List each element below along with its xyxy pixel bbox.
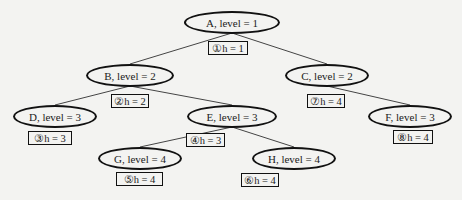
annotation-d-text: ③h = 3: [34, 132, 66, 144]
node-g-label: G, level = 4: [114, 153, 166, 165]
annotation-e: ④h = 3: [186, 133, 225, 147]
node-d: D, level = 3: [13, 105, 97, 128]
node-h: H, level = 4: [252, 147, 336, 170]
annotation-e-text: ④h = 3: [190, 134, 222, 146]
annotation-b-text: ②h = 2: [114, 95, 146, 107]
node-f: F, level = 3: [368, 105, 452, 128]
tree-diagram: A, level = 1 ①h = 1 B, level = 2 ②h = 2 …: [0, 0, 462, 200]
annotation-d: ③h = 3: [28, 131, 72, 145]
annotation-a: ①h = 1: [208, 41, 248, 55]
node-f-label: F, level = 3: [385, 111, 434, 123]
node-c-label: C, level = 2: [301, 70, 352, 82]
annotation-h-text: ⑥h = 4: [244, 174, 276, 186]
node-a: A, level = 1: [184, 11, 280, 34]
annotation-c: ⑦h = 4: [307, 94, 345, 108]
annotation-f-text: ⑧h = 4: [397, 131, 429, 143]
node-e-label: E, level = 3: [207, 111, 258, 123]
annotation-b: ②h = 2: [111, 94, 149, 108]
annotation-c-text: ⑦h = 4: [310, 95, 342, 107]
annotation-g-text: ⑤h = 4: [124, 173, 156, 185]
annotation-g: ⑤h = 4: [116, 172, 163, 186]
node-a-label: A, level = 1: [206, 17, 258, 29]
annotation-h: ⑥h = 4: [241, 173, 279, 187]
node-b: B, level = 2: [86, 64, 174, 87]
edge-e-h: [232, 127, 294, 147]
node-e: E, level = 3: [187, 105, 277, 128]
node-h-label: H, level = 4: [268, 153, 320, 165]
node-d-label: D, level = 3: [29, 111, 81, 123]
annotation-a-text: ①h = 1: [212, 42, 244, 54]
node-b-label: B, level = 2: [104, 70, 155, 82]
node-c: C, level = 2: [285, 64, 369, 87]
node-g: G, level = 4: [98, 147, 182, 170]
annotation-f: ⑧h = 4: [393, 130, 433, 144]
